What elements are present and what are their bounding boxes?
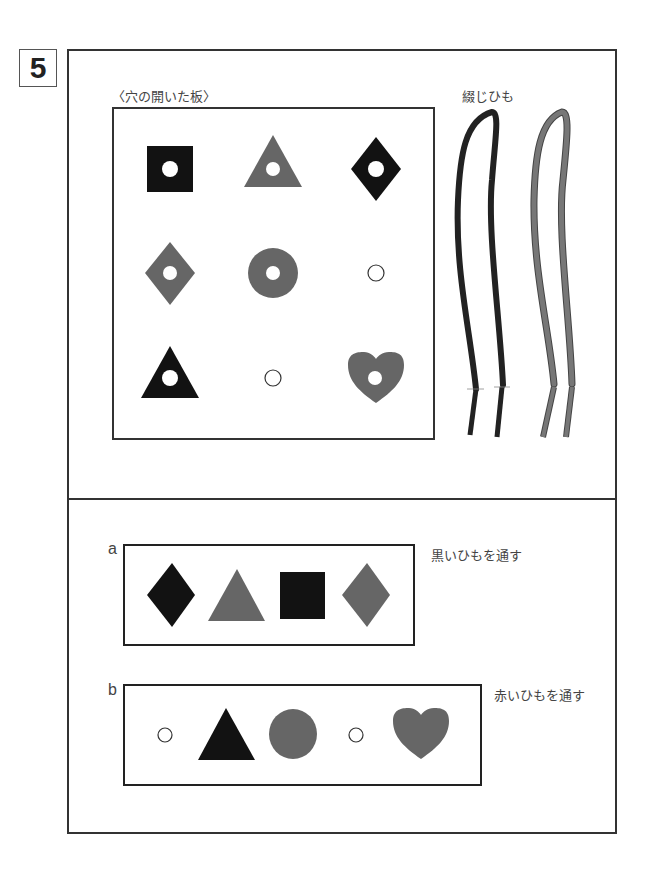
red-lace <box>534 112 572 437</box>
black-lace <box>458 112 510 437</box>
b-empty-hole <box>158 728 172 742</box>
board-diamond-gray <box>145 242 195 305</box>
a-square-black <box>280 572 325 619</box>
board-diamond-black <box>351 137 401 201</box>
b-empty-hole <box>349 728 363 742</box>
board-triangle-black <box>141 346 199 398</box>
a-triangle-gray <box>208 569 265 621</box>
figure-canvas <box>0 0 652 880</box>
b-heart-gray <box>393 708 449 759</box>
board-empty-hole <box>368 265 384 281</box>
b-triangle-black <box>198 708 255 760</box>
board-circle-gray <box>248 248 298 298</box>
board-square-black <box>147 146 193 192</box>
b-circle-gray <box>269 709 317 759</box>
a-diamond-black <box>147 563 195 627</box>
board-triangle-gray <box>244 135 302 187</box>
a-diamond-gray <box>342 563 390 627</box>
board-heart-gray <box>348 352 404 403</box>
board-empty-hole <box>265 370 281 386</box>
